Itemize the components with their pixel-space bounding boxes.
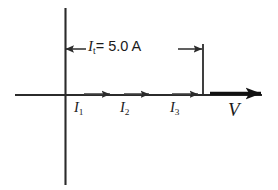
velocity-label: V: [228, 100, 240, 119]
total-current-value: = 5.0 A: [96, 38, 142, 54]
current-symbol-1: I1: [74, 99, 83, 115]
current-subscript-2: 2: [125, 107, 130, 117]
total-current-symbol: It: [88, 38, 96, 54]
current-symbol-2: I2: [120, 99, 129, 115]
current-subscript-1: 1: [79, 107, 84, 117]
velocity-symbol: V: [228, 99, 240, 120]
current-subscript-3: 3: [175, 107, 180, 117]
physics-diagram: It= 5.0 A I1 I2 I3 V: [0, 0, 278, 190]
current-symbol-3: I3: [170, 99, 179, 115]
diagram-canvas: [0, 0, 278, 190]
current-label-3: I3: [170, 100, 179, 117]
current-label-1: I1: [74, 100, 83, 117]
total-current-label: It= 5.0 A: [88, 38, 141, 56]
current-label-2: I2: [120, 100, 129, 117]
